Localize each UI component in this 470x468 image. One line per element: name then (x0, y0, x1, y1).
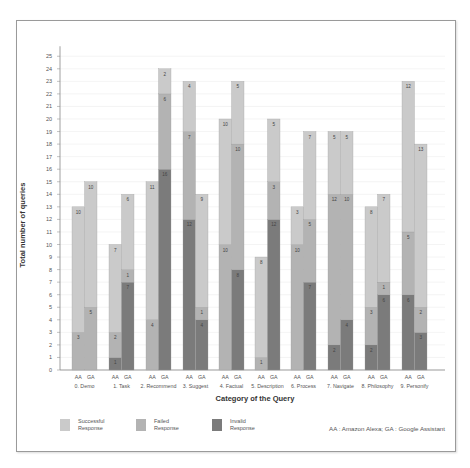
segment-label: 1 (114, 360, 117, 365)
bar-segment (268, 219, 281, 370)
subgroup-label: AA (405, 374, 413, 380)
segment-label: 5 (308, 222, 311, 227)
bar-segment (328, 132, 341, 195)
bar-segment (365, 207, 378, 307)
legend-swatch-successful (60, 419, 70, 431)
category-group: 127AA716GA1. Task (109, 194, 134, 389)
bar-segment (378, 295, 391, 370)
y-tick-label: 20 (46, 116, 52, 122)
stacked-bar-chart: 0123456789101112131415161718192021222324… (0, 0, 470, 410)
segment-label: 10 (344, 197, 350, 202)
category-label: 1. Task (113, 383, 130, 389)
segment-label: 7 (126, 285, 129, 290)
bar-segment (255, 257, 268, 357)
category-label: 3. Suggest (183, 383, 209, 389)
segment-label: 3 (370, 310, 373, 315)
legend-label: Successful (78, 418, 105, 424)
segment-label: 4 (188, 84, 191, 89)
bar-segment (122, 194, 135, 269)
category-label: 9. Personify (401, 383, 429, 389)
subgroup-label: AA (75, 374, 83, 380)
bar-segment (219, 119, 232, 245)
y-tick-label: 21 (46, 103, 52, 109)
segment-label: 11 (150, 185, 155, 190)
y-tick-label: 17 (46, 154, 52, 160)
legend-item-failed: FailedResponse (136, 418, 186, 432)
y-tick-label: 24 (46, 66, 52, 72)
y-tick-label: 0 (49, 367, 52, 373)
y-tick-label: 9 (49, 254, 52, 260)
segment-label: 8 (260, 260, 263, 265)
legend-label: Failed (154, 418, 169, 424)
segment-label: 5 (333, 135, 336, 140)
bar-segment (72, 207, 85, 333)
segment-label: 10 (76, 210, 82, 215)
segment-label: 8 (370, 210, 373, 215)
y-tick-label: 23 (46, 78, 52, 84)
subgroup-label: AA (294, 374, 302, 380)
y-tick-label: 5 (49, 304, 52, 310)
category-group: 411AA1662GA2. Recommend (141, 69, 177, 389)
segment-label: 7 (382, 197, 385, 202)
y-tick-label: 15 (46, 179, 52, 185)
bar-segment (402, 81, 415, 232)
segment-label: 2 (370, 348, 373, 353)
legend-item-invalid: InvalidResponse (212, 418, 262, 432)
x-axis-title: Category of the Query (0, 394, 470, 403)
segment-label: 5 (345, 135, 348, 140)
category-label: 7. Navigate (327, 383, 354, 389)
bar-segment (146, 182, 159, 320)
segment-label: 9 (200, 197, 203, 202)
bar-segment (402, 295, 415, 370)
y-tick-label: 7 (49, 279, 52, 285)
subgroup-label: AA (368, 374, 376, 380)
bar-segment (122, 282, 135, 370)
segment-label: 10 (295, 248, 301, 253)
segment-label: 4 (345, 323, 348, 328)
subgroup-label: GA (161, 374, 169, 380)
segment-label: 10 (223, 122, 229, 127)
bar-segment (304, 132, 317, 220)
segment-label: 6 (407, 298, 410, 303)
segment-label: 2 (333, 348, 336, 353)
legend-label: Response (230, 425, 255, 431)
subgroup-label: AA (331, 374, 339, 380)
category-group: 103AA757GA6. Process (291, 132, 316, 389)
legend-item-successful: SuccessfulResponse (60, 418, 110, 432)
segment-label: 10 (88, 185, 94, 190)
legend: SuccessfulResponse FailedResponse Invali… (60, 418, 262, 432)
y-tick-label: 6 (49, 292, 52, 298)
segment-label: 2 (163, 72, 166, 77)
segment-label: 1 (382, 285, 385, 290)
y-tick-label: 14 (46, 191, 52, 197)
category-label: 4. Factual (220, 383, 243, 389)
y-tick-label: 13 (46, 204, 52, 210)
y-tick-label: 3 (49, 329, 52, 335)
subgroup-label: GA (417, 374, 425, 380)
category-group: 18AA1235GA5. Description (251, 119, 283, 389)
segment-label: 10 (235, 147, 241, 152)
segment-label: 6 (382, 298, 385, 303)
segment-label: 3 (272, 185, 275, 190)
segment-label: 4 (151, 323, 154, 328)
category-group: 310AA510GA0. Demo (72, 182, 97, 389)
bar-segment (304, 282, 317, 370)
segment-label: 12 (187, 222, 193, 227)
y-tick-label: 25 (46, 53, 52, 59)
bar-segment (415, 144, 428, 307)
category-label: 5. Description (251, 383, 283, 389)
y-tick-label: 2 (49, 342, 52, 348)
category-group: 1010AA8105GA4. Factual (219, 81, 244, 389)
legend-swatch-invalid (212, 419, 222, 431)
category-label: 6. Process (291, 383, 316, 389)
category-label: 2. Recommend (141, 383, 177, 389)
y-tick-label: 12 (46, 216, 52, 222)
segment-label: 3 (419, 335, 422, 340)
bar-segment (109, 245, 122, 333)
bar-segment (341, 132, 354, 195)
segment-label: 12 (271, 222, 277, 227)
segment-label: 5 (407, 235, 410, 240)
subgroup-label: AA (258, 374, 266, 380)
bar-segment (268, 119, 281, 182)
subgroup-label: GA (198, 374, 206, 380)
